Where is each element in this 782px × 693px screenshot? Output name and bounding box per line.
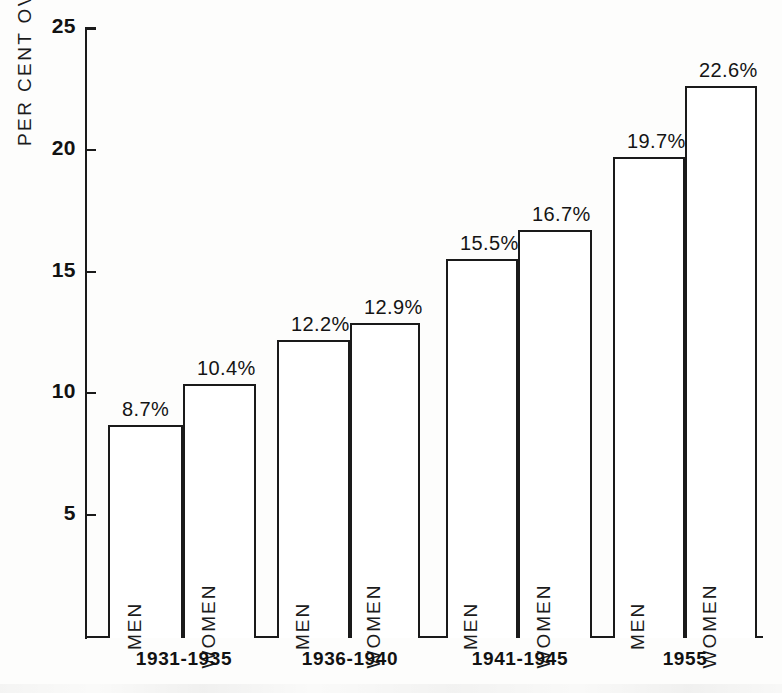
y-axis-tick-label: 25 bbox=[20, 14, 76, 38]
bar-women-1931-1935: WOMEN bbox=[183, 384, 256, 638]
bar-men-1955: MEN bbox=[613, 157, 685, 638]
bar-value-label: 16.7% bbox=[532, 203, 591, 226]
y-axis-tick bbox=[85, 514, 96, 516]
bar-women-1941-1945: WOMEN bbox=[518, 230, 592, 638]
bar-men-1936-1940: MEN bbox=[277, 340, 350, 638]
bar-value-label: 19.7% bbox=[627, 130, 686, 153]
bar-value-label: 22.6% bbox=[699, 59, 758, 82]
bar-series-label: MEN bbox=[460, 602, 482, 650]
bar-women-1936-1940: WOMEN bbox=[350, 323, 420, 638]
chart-figure: PER CENT OVER 60 YEARS 510152025 MEN8.7%… bbox=[0, 0, 782, 693]
bar-value-label: 12.2% bbox=[291, 313, 350, 336]
y-axis-tick bbox=[85, 149, 96, 151]
bar-women-1955: WOMEN bbox=[685, 86, 757, 638]
x-axis-category-label: 1936-1940 bbox=[260, 648, 440, 670]
y-axis-tick-label: 5 bbox=[20, 501, 76, 525]
y-axis-tick-label: 10 bbox=[20, 379, 76, 403]
bar-series-label: MEN bbox=[292, 602, 314, 650]
x-axis-category-label: 1931-1935 bbox=[94, 648, 274, 670]
y-axis-tick bbox=[85, 271, 96, 273]
y-axis-tick-label: 15 bbox=[20, 258, 76, 282]
y-axis-tick bbox=[85, 392, 96, 394]
scan-artifact bbox=[0, 684, 782, 693]
bar-men-1931-1935: MEN bbox=[108, 425, 183, 638]
bar-men-1941-1945: MEN bbox=[446, 259, 518, 638]
x-axis-category-label: 1941-1945 bbox=[430, 648, 610, 670]
y-axis-line bbox=[85, 28, 87, 639]
y-axis-tick-label: 20 bbox=[20, 136, 76, 160]
bar-value-label: 8.7% bbox=[122, 398, 169, 421]
bar-series-label: MEN bbox=[627, 602, 649, 650]
y-axis-tick bbox=[85, 27, 96, 29]
bar-value-label: 10.4% bbox=[197, 357, 256, 380]
bar-series-label: MEN bbox=[124, 602, 146, 650]
x-axis-category-label: 1955 bbox=[595, 648, 775, 670]
bar-value-label: 15.5% bbox=[460, 232, 519, 255]
bar-value-label: 12.9% bbox=[364, 296, 423, 319]
